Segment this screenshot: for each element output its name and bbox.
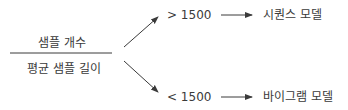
- arrow-down: [124, 61, 158, 92]
- branch-condition-low: < 1500: [167, 90, 211, 104]
- arrow-up: [124, 17, 158, 47]
- fraction-numerator: 샘플 개수: [38, 36, 86, 50]
- branch-result-low: 바이그램 모델: [263, 90, 333, 104]
- branch-result-high: 시퀀스 모델: [263, 8, 322, 22]
- fraction-denominator: 평균 샘플 길이: [27, 62, 101, 76]
- branch-condition-high: > 1500: [167, 8, 211, 22]
